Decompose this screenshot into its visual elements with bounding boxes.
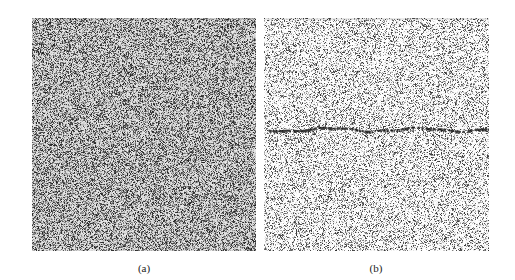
panel-a-canvas xyxy=(32,18,256,251)
caption-a: (a) xyxy=(124,262,164,274)
figure: (a) (b) xyxy=(0,0,515,280)
panel-b-canvas xyxy=(264,18,489,251)
panel-b-processed-texture-image xyxy=(264,18,489,251)
caption-b: (b) xyxy=(356,262,396,274)
panel-a-noisy-texture-image xyxy=(32,18,256,251)
